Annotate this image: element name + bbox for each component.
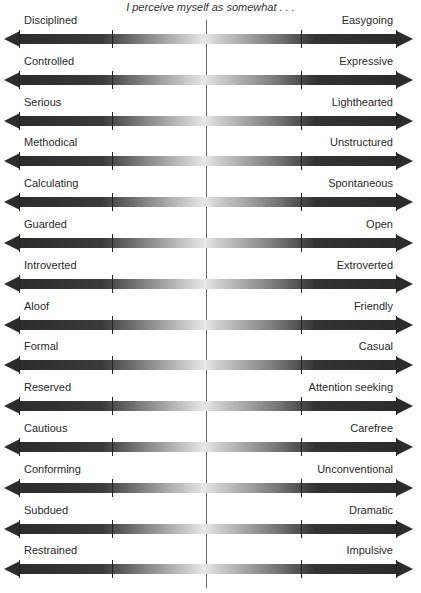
gradient-shaft (18, 197, 399, 207)
arrow-right-icon (397, 72, 413, 88)
tick-mark (19, 316, 20, 334)
rating-scale-row[interactable]: Disciplined Easygoing (0, 14, 421, 56)
arrow-right-icon (397, 31, 413, 47)
rating-scale-row[interactable]: Serious Lighthearted (0, 96, 421, 138)
scale-right-label: Easygoing (342, 14, 393, 26)
gradient-shaft (18, 75, 399, 85)
tick-mark (19, 112, 20, 130)
scale-left-label: Aloof (24, 300, 49, 312)
scale-left-label: Reserved (24, 381, 71, 393)
tick-mark (112, 479, 113, 497)
tick-mark (301, 438, 302, 456)
gradient-shaft (18, 279, 399, 289)
tick-mark (19, 438, 20, 456)
double-arrow-scale[interactable] (4, 398, 413, 412)
arrow-right-icon (397, 561, 413, 577)
double-arrow-scale[interactable] (4, 317, 413, 331)
arrow-right-icon (397, 113, 413, 129)
rating-scale-row[interactable]: Reserved Attention seeking (0, 381, 421, 423)
double-arrow-scale[interactable] (4, 235, 413, 249)
gradient-shaft (18, 401, 399, 411)
gradient-shaft (18, 564, 399, 574)
arrow-right-icon (397, 194, 413, 210)
arrow-right-icon (397, 439, 413, 455)
tick-mark (19, 397, 20, 415)
arrow-right-icon (397, 235, 413, 251)
tick-mark (301, 234, 302, 252)
gradient-shaft (18, 360, 399, 370)
tick-mark (301, 112, 302, 130)
rating-scale-row[interactable]: Cautious Carefree (0, 422, 421, 464)
double-arrow-scale[interactable] (4, 113, 413, 127)
double-arrow-scale[interactable] (4, 72, 413, 86)
double-arrow-scale[interactable] (4, 194, 413, 208)
tick-mark (301, 560, 302, 578)
double-arrow-scale[interactable] (4, 31, 413, 45)
rating-scale-row[interactable]: Introverted Extroverted (0, 259, 421, 301)
gradient-shaft (18, 442, 399, 452)
tick-mark (112, 30, 113, 48)
arrow-right-icon (397, 276, 413, 292)
scale-left-label: Conforming (24, 463, 81, 475)
scale-right-label: Friendly (354, 300, 393, 312)
tick-mark (396, 560, 397, 578)
scale-right-label: Extroverted (337, 259, 393, 271)
double-arrow-scale[interactable] (4, 439, 413, 453)
worksheet-title: I perceive myself as somewhat . . . (0, 0, 421, 14)
tick-mark (19, 152, 20, 170)
arrow-right-icon (397, 153, 413, 169)
rating-scale-row[interactable]: Subdued Dramatic (0, 504, 421, 546)
tick-mark (301, 193, 302, 211)
scale-right-label: Spontaneous (328, 177, 393, 189)
tick-mark (396, 356, 397, 374)
tick-mark (396, 438, 397, 456)
tick-mark (112, 356, 113, 374)
rating-scale-row[interactable]: Restrained Impulsive (0, 544, 421, 586)
double-arrow-scale[interactable] (4, 357, 413, 371)
tick-mark (396, 316, 397, 334)
arrow-right-icon (397, 398, 413, 414)
rating-scale-row[interactable]: Controlled Expressive (0, 55, 421, 97)
tick-mark (396, 71, 397, 89)
arrow-right-icon (397, 357, 413, 373)
double-arrow-scale[interactable] (4, 153, 413, 167)
rating-scale-row[interactable]: Formal Casual (0, 340, 421, 382)
tick-mark (396, 152, 397, 170)
scale-right-label: Unstructured (330, 136, 393, 148)
rating-scale-row[interactable]: Conforming Unconventional (0, 463, 421, 505)
double-arrow-scale[interactable] (4, 521, 413, 535)
tick-mark (396, 397, 397, 415)
double-arrow-scale[interactable] (4, 561, 413, 575)
rating-scale-row[interactable]: Aloof Friendly (0, 300, 421, 342)
tick-mark (396, 479, 397, 497)
rating-scale-row[interactable]: Calculating Spontaneous (0, 177, 421, 219)
tick-mark (112, 520, 113, 538)
arrow-right-icon (397, 317, 413, 333)
tick-mark (396, 30, 397, 48)
tick-mark (396, 234, 397, 252)
scale-left-label: Subdued (24, 504, 68, 516)
scale-left-label: Guarded (24, 218, 67, 230)
scale-left-label: Serious (24, 96, 61, 108)
tick-mark (112, 560, 113, 578)
scale-right-label: Carefree (350, 422, 393, 434)
rating-scale-row[interactable]: Guarded Open (0, 218, 421, 260)
scale-left-label: Methodical (24, 136, 77, 148)
tick-mark (19, 275, 20, 293)
double-arrow-scale[interactable] (4, 276, 413, 290)
scale-left-label: Controlled (24, 55, 74, 67)
arrow-right-icon (397, 521, 413, 537)
tick-mark (301, 520, 302, 538)
tick-mark (301, 397, 302, 415)
gradient-shaft (18, 320, 399, 330)
scale-right-label: Lighthearted (332, 96, 393, 108)
double-arrow-scale[interactable] (4, 480, 413, 494)
gradient-shaft (18, 238, 399, 248)
tick-mark (19, 30, 20, 48)
gradient-shaft (18, 156, 399, 166)
tick-mark (19, 234, 20, 252)
tick-mark (301, 356, 302, 374)
rating-scale-row[interactable]: Methodical Unstructured (0, 136, 421, 178)
scale-left-label: Disciplined (24, 14, 77, 26)
tick-mark (19, 479, 20, 497)
